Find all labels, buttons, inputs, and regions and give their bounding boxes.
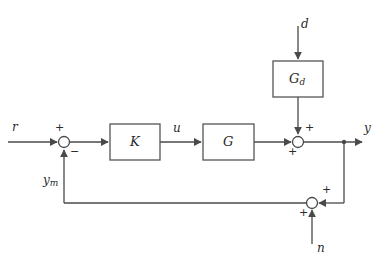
sign-sum-feedback-plus-output-text: + (322, 183, 331, 196)
block-label-Gd: Gd (289, 72, 305, 87)
block-label-G-text: G (223, 134, 233, 149)
signal-label-ym-text: y (43, 173, 50, 187)
sign-sum-error-minus: − (70, 146, 79, 157)
sign-sum-feedback-plus-output: + (322, 184, 331, 195)
signal-label-ym: ym (43, 174, 58, 188)
sign-sum-feedback-plus-noise-text: + (299, 206, 308, 219)
signal-label-n-text: n (317, 241, 325, 255)
sign-sum-output-plus-disturbance: + (305, 122, 314, 133)
signal-label-u-text: u (173, 121, 181, 135)
summing-junction-error (59, 137, 70, 148)
block-label-Gd-text: G (289, 71, 299, 86)
sign-sum-output-plus-disturbance-text: + (305, 121, 314, 134)
block-label-G: G (223, 135, 233, 148)
signal-label-r-text: r (12, 120, 18, 134)
signal-label-u: u (173, 122, 181, 134)
signal-label-n: n (317, 242, 325, 254)
block-label-K-text: K (130, 134, 140, 149)
sign-sum-error-minus-text: − (70, 145, 79, 158)
signal-label-y-text: y (364, 121, 371, 135)
block-label-Gd-subscript: d (299, 77, 305, 87)
signal-label-d-text: d (301, 17, 309, 31)
block-diagram: K G Gd r u y d n ym + − + + + + (0, 0, 389, 265)
output-branch-point (342, 140, 346, 144)
signal-label-r: r (12, 121, 18, 133)
sign-sum-error-plus-text: + (55, 121, 64, 134)
signal-label-d: d (301, 18, 309, 30)
sign-sum-error-plus: + (55, 122, 64, 133)
sign-sum-feedback-plus-noise: + (299, 207, 308, 218)
signal-label-y: y (364, 122, 371, 134)
block-label-K: K (130, 135, 140, 148)
sign-sum-output-plus-plant: + (288, 146, 297, 157)
signal-label-ym-subscript: m (50, 178, 59, 188)
sign-sum-output-plus-plant-text: + (288, 145, 297, 158)
